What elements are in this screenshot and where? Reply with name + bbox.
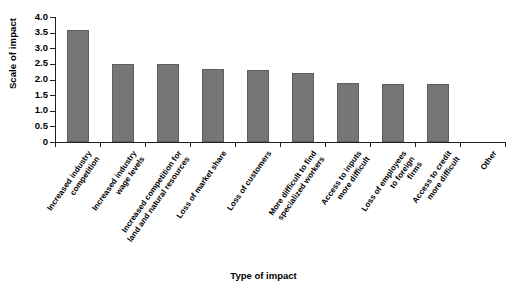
x-tick-mark [325,142,326,147]
x-axis-title: Type of impact [0,270,527,281]
x-tick-mark [370,142,371,147]
x-tick-mark [280,142,281,147]
y-axis-line [55,17,56,142]
y-tick-label: 2.5 [26,57,48,68]
bar-chart: Scale of impact 00.51.01.52.02.53.03.54.… [0,0,527,294]
y-tick-label: 1.0 [26,104,48,115]
y-tick-label: 1.5 [26,89,48,100]
bar [337,83,359,142]
bar [247,70,269,142]
y-tick-mark [50,126,55,127]
y-tick-label: 2.0 [26,73,48,84]
x-tick-mark [460,142,461,147]
bar [157,64,179,142]
plot-area: 00.51.01.52.02.53.03.54.0 [55,17,505,142]
y-tick-mark [50,48,55,49]
y-tick-label: 3.0 [26,42,48,53]
x-tick-mark [55,142,56,147]
y-tick-mark [50,33,55,34]
bar [67,30,89,143]
bar [112,64,134,142]
bar [427,84,449,142]
y-tick-mark [50,95,55,96]
bar [382,84,404,142]
x-tick-mark [100,142,101,147]
x-tick-mark [415,142,416,147]
bar [202,69,224,142]
x-tick-mark [235,142,236,147]
x-tick-mark [145,142,146,147]
y-tick-label: 4.0 [26,11,48,22]
y-tick-label: 3.5 [26,26,48,37]
y-tick-mark [50,80,55,81]
y-tick-label: 0 [26,136,48,147]
bar [292,73,314,142]
y-tick-mark [50,17,55,18]
x-tick-mark [190,142,191,147]
x-tick-mark [505,142,506,147]
y-tick-label: 0.5 [26,120,48,131]
y-tick-mark [50,64,55,65]
y-tick-mark [50,111,55,112]
y-axis-title: Scale of impact [7,0,18,114]
